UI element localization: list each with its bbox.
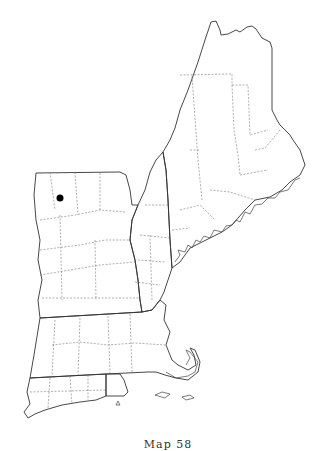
vermont-outline <box>34 172 142 318</box>
record-dot <box>57 195 64 202</box>
massachusetts-county-lines <box>52 314 165 376</box>
connecticut-county-lines <box>30 375 106 408</box>
rhode-island-outline <box>106 374 128 396</box>
maine-county-lines <box>172 74 280 230</box>
new-hampshire-county-lines <box>135 205 170 300</box>
vermont-county-lines <box>40 172 140 300</box>
connecticut-outline <box>24 374 106 418</box>
new-hampshire-outline <box>130 152 172 312</box>
maine-outline <box>163 21 305 268</box>
map-caption: Map 58 <box>0 438 336 451</box>
islands <box>116 392 194 405</box>
massachusetts-outline <box>30 300 200 380</box>
